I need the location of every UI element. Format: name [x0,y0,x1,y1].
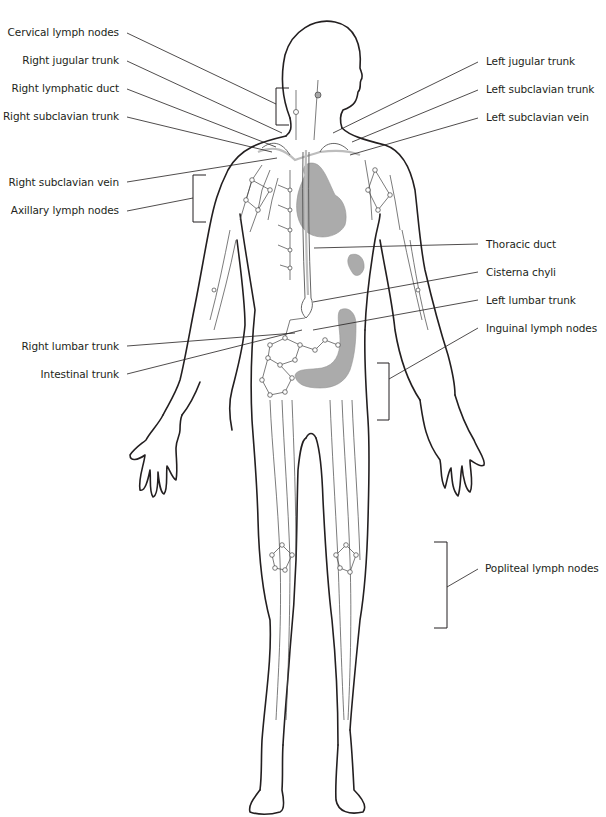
label-inguinal-lymph-nodes: Inguinal lymph nodes [486,322,597,335]
popliteal-bracket [434,542,447,628]
spleen [348,254,364,275]
heart [297,163,347,237]
inguinal-bracket [377,363,389,420]
label-left-lumbar-trunk: Left lumbar trunk [486,294,576,307]
label-right-lumbar-trunk: Right lumbar trunk [21,340,119,353]
cisterna-chyli-shape [301,298,312,318]
leader-lines [127,33,478,587]
label-right-subclavian-vein: Right subclavian vein [8,176,119,189]
cervical-bracket [276,88,289,125]
label-axillary-lymph-nodes: Axillary lymph nodes [11,204,119,217]
label-left-subclavian-vein: Left subclavian vein [486,111,589,124]
body-outline [130,21,484,814]
label-cervical-lymph-nodes: Cervical lymph nodes [8,26,119,39]
label-right-lymphatic-duct: Right lymphatic duct [12,82,119,95]
label-left-subclavian-trunk: Left subclavian trunk [486,83,594,96]
intestine [295,309,356,388]
label-right-jugular-trunk: Right jugular trunk [22,54,119,67]
label-cisterna-chyli: Cisterna chyli [486,266,556,279]
axillary-bracket [193,175,206,222]
lymphatic-system-diagram: Cervical lymph nodes Right jugular trunk… [0,0,606,817]
label-left-jugular-trunk: Left jugular trunk [486,55,575,68]
label-thoracic-duct: Thoracic duct [486,238,556,251]
label-intestinal-trunk: Intestinal trunk [41,368,119,381]
label-right-subclavian-trunk: Right subclavian trunk [3,110,119,123]
label-popliteal-lymph-nodes: Popliteal lymph nodes [485,562,599,575]
